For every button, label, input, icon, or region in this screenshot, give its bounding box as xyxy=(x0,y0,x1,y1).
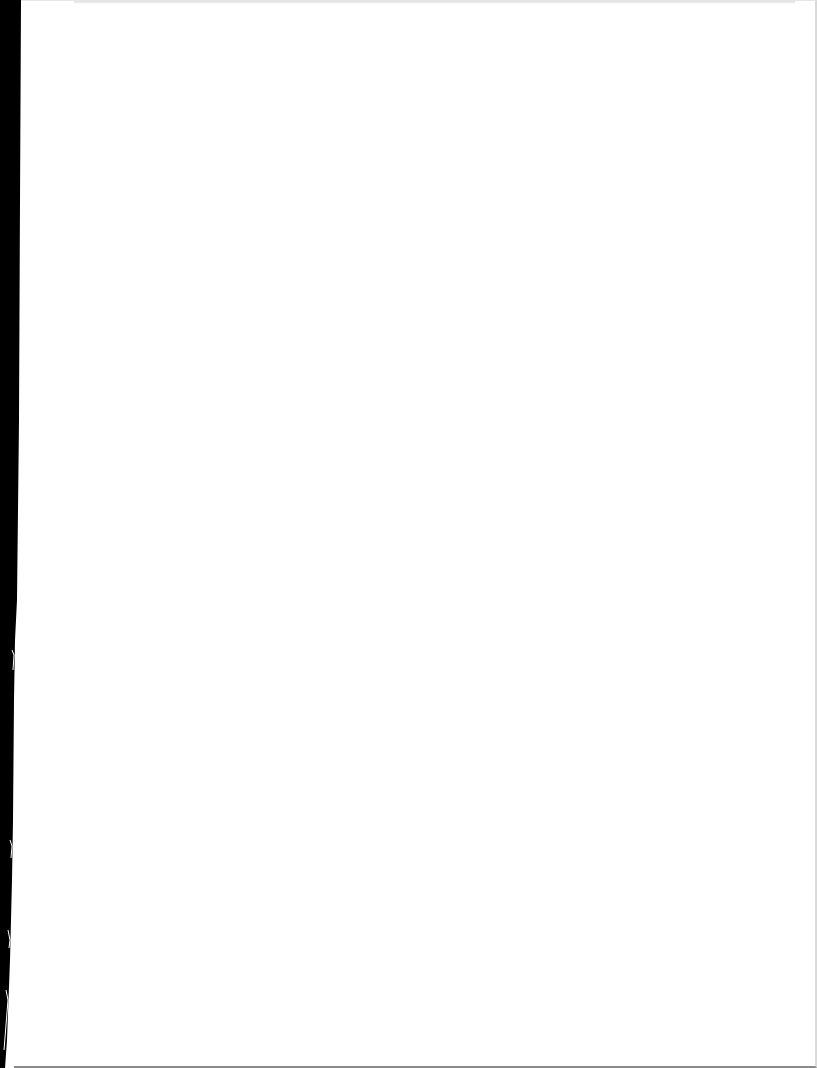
scanned-page xyxy=(14,0,817,1068)
page-content xyxy=(14,1,815,1066)
scan-edge-left xyxy=(0,0,22,1068)
